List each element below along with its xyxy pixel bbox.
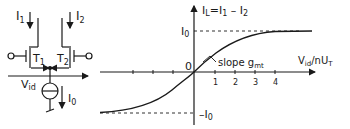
t1-label: T1 <box>32 52 45 67</box>
differential-pair-circuit <box>8 12 92 112</box>
ymax-label: I0 <box>181 25 189 39</box>
diagram-canvas: I1 I2 T1 T2 Vid I0 IL=I1 – I2 I0 –I0 <box>0 0 350 129</box>
slope-label: slope gmt <box>218 57 264 70</box>
i1-label: I1 <box>16 9 25 25</box>
x-axis-label: Vid/nUT <box>298 55 333 68</box>
x-tick-label-1: 1 <box>213 78 218 87</box>
origin-label: 0 <box>185 60 192 73</box>
t2-label: T2 <box>56 52 69 67</box>
ymin-label: –I0 <box>199 108 213 122</box>
x-tick-label-4: 4 <box>273 78 278 87</box>
x-tick-label-3: 3 <box>253 78 258 87</box>
input-terminal-1 <box>8 53 14 59</box>
i0-source-label: I0 <box>68 92 76 107</box>
chart-title: IL=I1 – I2 <box>202 4 248 18</box>
i2-label: I2 <box>76 9 85 25</box>
vid-label: Vid <box>21 78 36 92</box>
x-tick-label-2: 2 <box>233 78 238 87</box>
input-terminal-2 <box>86 53 92 59</box>
